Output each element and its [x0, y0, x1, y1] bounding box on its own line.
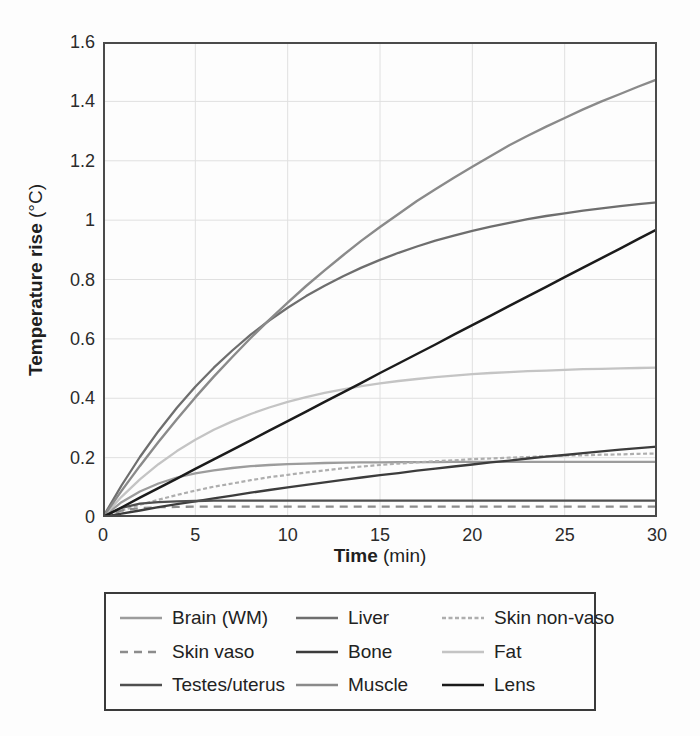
y-tick-label: 0.2 [32, 448, 95, 468]
legend-item-brain-wm: Brain (WM) [120, 607, 296, 629]
x-tick-label: 25 [543, 525, 587, 545]
x-axis-label-unit: (min) [378, 545, 427, 566]
legend-label: Skin non-vaso [494, 607, 614, 629]
y-tick-label: 0.6 [32, 329, 95, 349]
legend-swatch-line [442, 648, 484, 656]
x-tick-label: 10 [266, 525, 310, 545]
legend-label: Testes/uterus [172, 674, 285, 696]
x-tick-label: 15 [358, 525, 402, 545]
legend-swatch-line [442, 681, 484, 689]
legend-item-liver: Liver [296, 607, 442, 629]
y-tick-label: 1.6 [32, 32, 95, 52]
legend-item-fat: Fat [442, 641, 594, 663]
legend-label: Fat [494, 641, 521, 663]
y-tick-label: 0 [32, 507, 95, 527]
x-axis-label: Time (min) [334, 545, 427, 567]
legend-item-bone: Bone [296, 641, 442, 663]
y-tick-label: 1.2 [32, 151, 95, 171]
legend-item-testes-uterus: Testes/uterus [120, 674, 296, 696]
y-tick-label: 0.8 [32, 270, 95, 290]
legend-label: Brain (WM) [172, 607, 268, 629]
legend-swatch-line [296, 614, 338, 622]
legend-label: Skin vaso [172, 641, 254, 663]
y-axis-label-text: Temperature rise [25, 223, 46, 376]
legend-swatch-line [296, 681, 338, 689]
legend-swatch-line [442, 614, 484, 622]
legend-swatch-line [120, 614, 162, 622]
line-chart-plot-area [103, 42, 657, 517]
legend-item-muscle: Muscle [296, 674, 442, 696]
legend-label: Lens [494, 674, 535, 696]
x-tick-label: 5 [173, 525, 217, 545]
x-axis-label-text: Time [334, 545, 378, 566]
y-tick-label: 1.4 [32, 91, 95, 111]
legend-item-lens: Lens [442, 674, 594, 696]
legend-swatch-line [296, 648, 338, 656]
temperature-rise-figure: Temperature rise (°C) Time (min) Brain (… [0, 0, 700, 736]
x-tick-label: 20 [450, 525, 494, 545]
legend-swatch-line [120, 681, 162, 689]
legend-swatch-line [120, 648, 162, 656]
legend-item-skin-non-vaso: Skin non-vaso [442, 607, 594, 629]
legend-label: Bone [348, 641, 392, 663]
x-tick-label: 0 [81, 525, 125, 545]
legend-label: Muscle [348, 674, 408, 696]
x-tick-label: 30 [635, 525, 679, 545]
legend-item-skin-vaso: Skin vaso [120, 641, 296, 663]
chart-legend: Brain (WM) Liver Skin non-vaso Skin vaso… [104, 592, 596, 711]
y-tick-label: 0.4 [32, 388, 95, 408]
y-tick-label: 1 [32, 210, 95, 230]
legend-label: Liver [348, 607, 389, 629]
